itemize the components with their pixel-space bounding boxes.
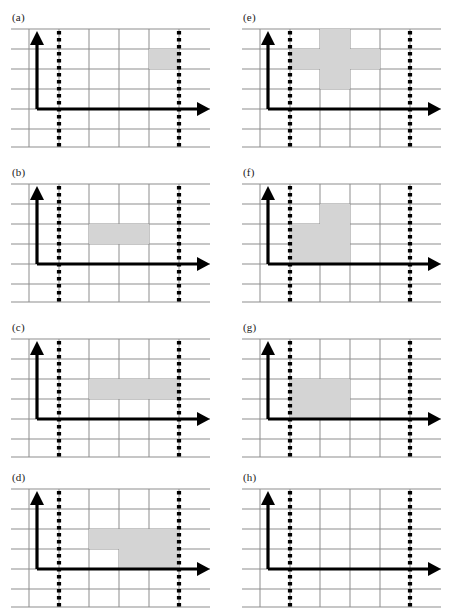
panel-b-grid <box>11 182 210 304</box>
shaded-region-g <box>290 379 350 419</box>
figure-sheet: (a) <box>0 0 451 609</box>
shaded-region-a <box>149 49 179 69</box>
panel-c-grid <box>11 337 210 459</box>
panel-label-h: (h) <box>243 472 256 483</box>
panel-label-f: (f) <box>243 167 255 178</box>
panel-label-a: (a) <box>12 12 25 23</box>
panel-g-grid <box>242 337 441 459</box>
panel-d-grid <box>11 487 210 609</box>
panel-f-grid <box>242 182 441 304</box>
panel-label-b: (b) <box>12 167 25 178</box>
panel-e-grid <box>242 27 441 149</box>
shaded-region-d <box>89 529 179 569</box>
panel-label-g: (g) <box>243 322 256 333</box>
panel-h-grid <box>242 487 441 609</box>
shaded-region-c <box>89 379 179 399</box>
panel-label-c: (c) <box>12 322 25 333</box>
shaded-region-b <box>89 224 149 244</box>
panel-label-e: (e) <box>243 12 256 23</box>
panel-a-grid <box>11 27 210 149</box>
shaded-region-e <box>290 29 380 89</box>
panel-label-d: (d) <box>12 472 25 483</box>
shaded-region-f <box>290 204 350 264</box>
